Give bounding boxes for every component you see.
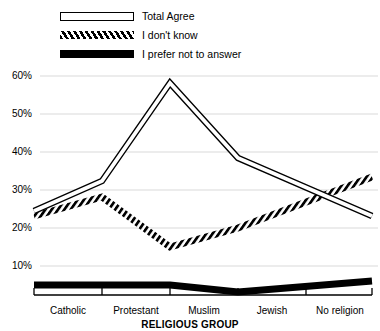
series-line-prefer-not-to-answer xyxy=(34,281,372,292)
chart-plot-area xyxy=(0,0,380,331)
chart-container: Total Agree I don't know I prefer not to… xyxy=(0,0,380,331)
series-line-total-agree-inner xyxy=(34,83,372,216)
